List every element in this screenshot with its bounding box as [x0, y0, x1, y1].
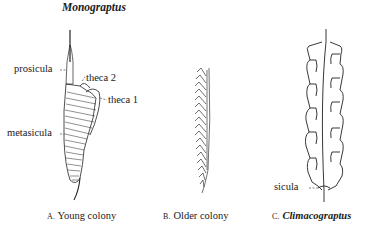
climacograptus-drawing: [305, 29, 343, 202]
label-prosicula: prosicula: [14, 63, 53, 74]
young-colony-drawing: [64, 30, 100, 200]
caption-c-letter: C.: [272, 212, 280, 221]
label-theca-2: theca 2: [86, 72, 116, 83]
caption-b-text: Older colony: [173, 210, 228, 221]
caption-c-text: Climacograptus: [282, 210, 351, 221]
graptolite-drawings: [0, 0, 371, 236]
label-theca-1: theca 1: [108, 94, 138, 105]
label-metasicula: metasicula: [7, 127, 52, 138]
caption-c: C. Climacograptus: [272, 210, 351, 221]
label-sicula: sicula: [274, 181, 299, 192]
caption-b-letter: B.: [163, 212, 171, 221]
caption-a-text: Young colony: [57, 210, 116, 221]
older-colony-drawing: [195, 68, 210, 193]
caption-a: A. Young colony: [47, 210, 116, 221]
caption-b: B. Older colony: [163, 210, 229, 221]
caption-a-letter: A.: [47, 212, 55, 221]
